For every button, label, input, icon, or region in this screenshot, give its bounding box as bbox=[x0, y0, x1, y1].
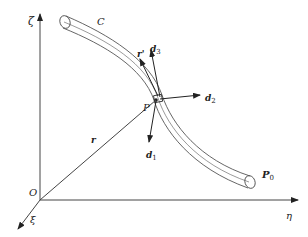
position-vector-r bbox=[40, 100, 156, 200]
label-p0: P0 bbox=[261, 169, 274, 182]
label-xi: ξ bbox=[30, 214, 36, 225]
vector-r-prime bbox=[140, 59, 158, 96]
label-r-prime: r' bbox=[137, 49, 145, 59]
xi-axis bbox=[18, 200, 40, 229]
label-eta: η bbox=[286, 210, 292, 221]
vector-d2 bbox=[160, 95, 200, 99]
label-curve-c: C bbox=[97, 16, 105, 27]
rod-diagram: ζ η ξ O C P r r' d3 d2 d1 P0 bbox=[0, 0, 308, 237]
tube-start-cap bbox=[58, 14, 72, 30]
label-r: r bbox=[91, 135, 97, 145]
label-origin: O bbox=[29, 187, 37, 198]
label-d2: d2 bbox=[205, 93, 216, 105]
label-d1: d1 bbox=[146, 150, 157, 162]
vector-d1 bbox=[149, 101, 156, 142]
label-zeta: ζ bbox=[28, 15, 35, 28]
label-point-p: P bbox=[142, 102, 150, 113]
axes bbox=[18, 14, 298, 229]
tube-end-cap bbox=[243, 174, 257, 190]
